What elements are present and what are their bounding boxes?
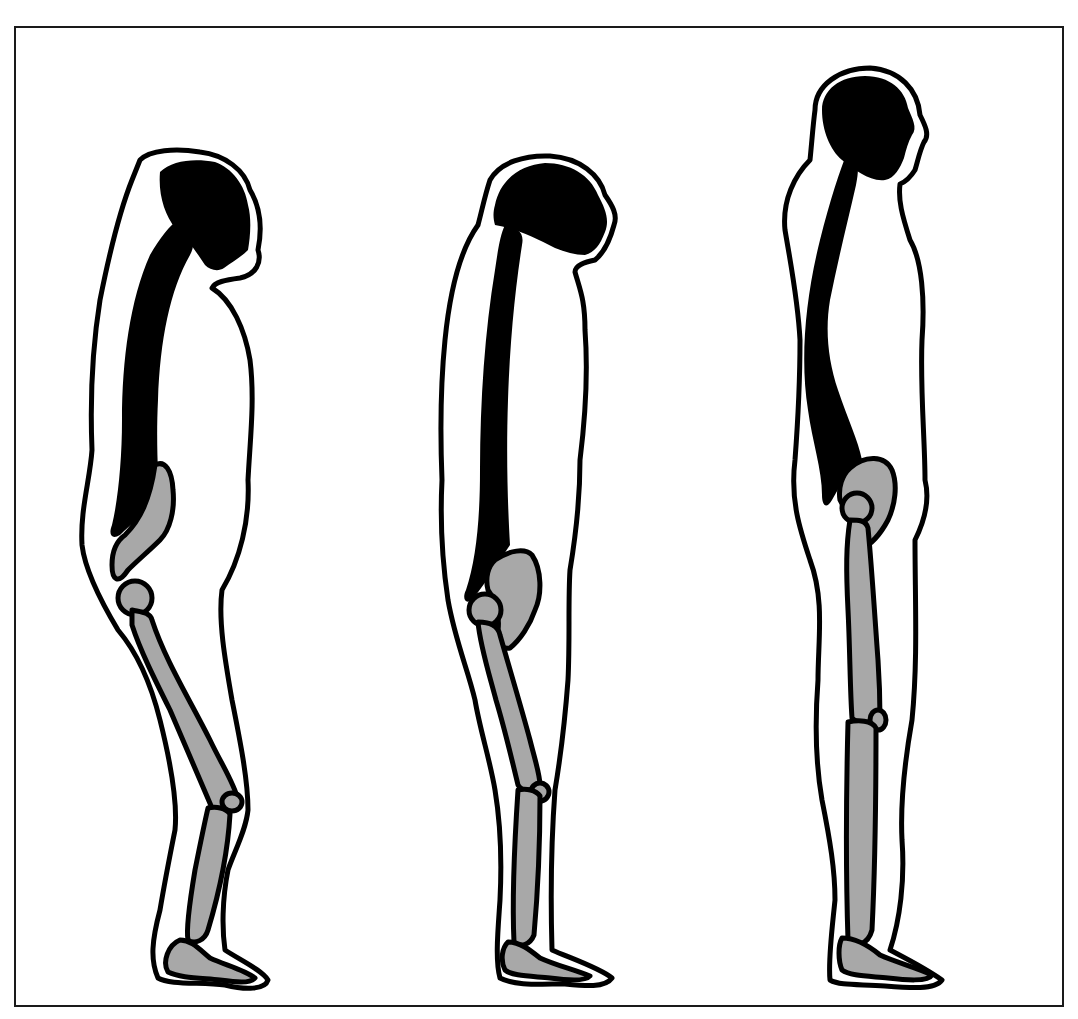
tibia — [847, 721, 877, 944]
tibia — [513, 789, 540, 945]
posture-diagram — [0, 0, 1078, 1019]
